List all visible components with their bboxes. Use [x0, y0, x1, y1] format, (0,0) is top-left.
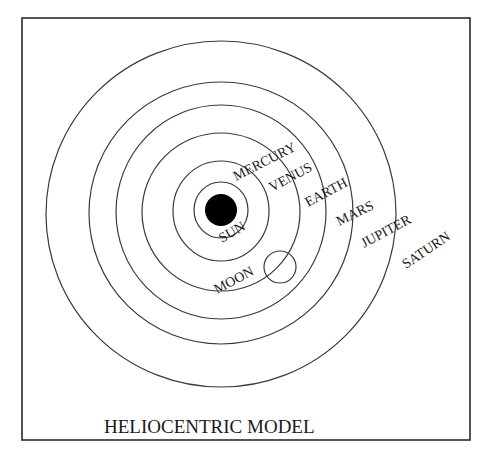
sun-disc: [205, 194, 237, 226]
moon-orbit: [264, 251, 296, 283]
label-moon: MOON: [211, 263, 256, 296]
label-saturn: SATURN: [399, 229, 453, 272]
diagram-title: HELIOCENTRIC MODEL: [104, 416, 315, 437]
label-jupiter: JUPITER: [358, 212, 414, 251]
heliocentric-model-diagram: SUN MERCURY VENUS EARTH MARS JUPITER SAT…: [0, 0, 491, 459]
label-mars: MARS: [334, 198, 376, 229]
